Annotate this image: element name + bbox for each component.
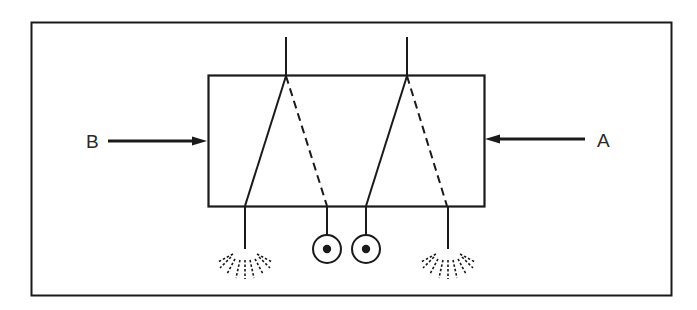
path-solid-2 [366, 76, 407, 206]
path-solid-1 [245, 76, 286, 206]
valve-body [209, 76, 485, 207]
arrow-input-a [485, 135, 585, 144]
label-input-a: A [597, 130, 610, 151]
label-input-b: B [86, 131, 99, 152]
indicator-dot-left [323, 245, 331, 253]
spray-icon-right [421, 254, 475, 279]
outer-frame [32, 23, 672, 296]
arrow-input-b [108, 137, 207, 146]
indicator-dot-right [362, 245, 370, 253]
spray-icon-left [218, 254, 272, 279]
path-dashed-1 [286, 76, 327, 206]
path-dashed-2 [407, 76, 447, 206]
valve-schematic: B A [0, 0, 697, 310]
